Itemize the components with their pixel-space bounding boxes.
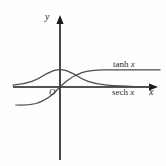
tanh-variable: x	[131, 59, 135, 69]
hyperbolic-functions-figure: y x O tanh x sech x	[0, 0, 166, 166]
tanh-function-name: tanh	[113, 59, 129, 69]
tanh-curve-label: tanh x	[113, 60, 135, 69]
origin-label: O	[49, 88, 56, 97]
x-axis-label: x	[149, 87, 153, 97]
sech-function-name: sech	[112, 87, 128, 97]
y-axis-arrow-icon	[56, 15, 63, 24]
sech-curve-label: sech x	[112, 88, 134, 97]
sech-curve	[13, 69, 150, 87]
plot-canvas	[0, 0, 166, 166]
y-axis-label: y	[45, 12, 49, 22]
sech-variable: x	[130, 87, 134, 97]
